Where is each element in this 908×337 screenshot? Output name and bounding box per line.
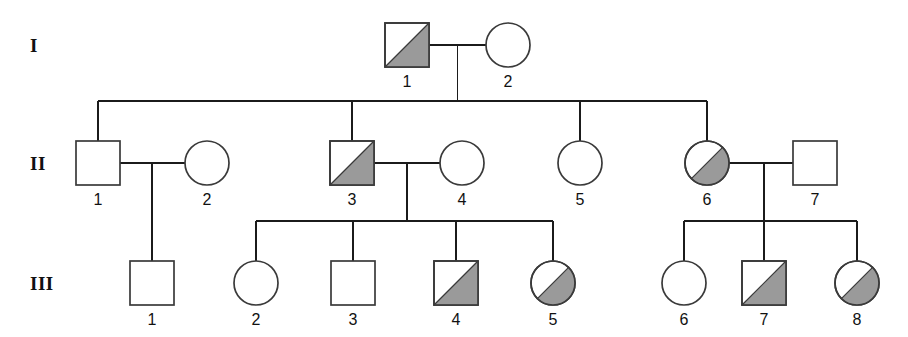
pedigree-canvas: I II III: [0, 0, 908, 337]
id-label-ii1: 1: [94, 191, 103, 208]
individual-ii-7[interactable]: 7: [793, 141, 837, 208]
id-label-ii6: 6: [703, 191, 712, 208]
individual-iii-7[interactable]: 7: [742, 261, 786, 328]
id-label-iii5: 5: [549, 311, 558, 328]
id-label-iii2: 2: [252, 311, 261, 328]
generation-labels: I II III: [30, 35, 54, 294]
symbol-circle-i2[interactable]: [486, 23, 530, 67]
individual-ii-1[interactable]: 1: [76, 141, 120, 208]
symbol-square-ii1[interactable]: [76, 141, 120, 185]
id-label-iii4: 4: [452, 311, 461, 328]
symbol-square-iii1[interactable]: [130, 261, 174, 305]
individual-iii-6[interactable]: 6: [662, 261, 706, 328]
id-label-ii2: 2: [203, 191, 212, 208]
individual-iii-4[interactable]: 4: [434, 261, 478, 328]
symbol-circle-ii5[interactable]: [558, 141, 602, 185]
generation-label-iii: III: [30, 273, 54, 294]
symbol-circle-ii4[interactable]: [440, 141, 484, 185]
symbol-circle-ii2[interactable]: [185, 141, 229, 185]
individual-ii-4[interactable]: 4: [440, 141, 484, 208]
id-label-iii3: 3: [349, 311, 358, 328]
individual-ii-2[interactable]: 2: [185, 141, 229, 208]
individual-iii-1[interactable]: 1: [130, 261, 174, 328]
id-label-i2: 2: [504, 73, 513, 90]
individual-iii-8[interactable]: 8: [835, 261, 879, 328]
id-label-ii3: 3: [348, 191, 357, 208]
pedigree-chart: I II III: [0, 0, 908, 337]
individual-i-2[interactable]: 2: [486, 23, 530, 90]
id-label-iii7: 7: [760, 311, 769, 328]
individual-ii-5[interactable]: 5: [558, 141, 602, 208]
individual-i-1[interactable]: 1: [385, 23, 429, 90]
generation-iii-individuals: 1 2 3 4: [130, 261, 879, 328]
id-label-ii7: 7: [811, 191, 820, 208]
generation-ii-individuals: 1 2 3 4 5: [76, 141, 837, 208]
id-label-ii4: 4: [458, 191, 467, 208]
id-label-ii5: 5: [576, 191, 585, 208]
individual-iii-3[interactable]: 3: [331, 261, 375, 328]
individual-ii-6[interactable]: 6: [685, 141, 729, 208]
id-label-iii8: 8: [853, 311, 862, 328]
generation-label-ii: II: [30, 153, 46, 174]
generation-label-i: I: [30, 35, 38, 56]
individual-ii-3[interactable]: 3: [330, 141, 374, 208]
individual-iii-5[interactable]: 5: [531, 261, 575, 328]
symbol-circle-iii2[interactable]: [234, 261, 278, 305]
symbol-circle-iii6[interactable]: [662, 261, 706, 305]
id-label-iii6: 6: [680, 311, 689, 328]
id-label-i1: 1: [403, 73, 412, 90]
symbol-square-iii3[interactable]: [331, 261, 375, 305]
symbol-square-ii7[interactable]: [793, 141, 837, 185]
id-label-iii1: 1: [148, 311, 157, 328]
individual-iii-2[interactable]: 2: [234, 261, 278, 328]
